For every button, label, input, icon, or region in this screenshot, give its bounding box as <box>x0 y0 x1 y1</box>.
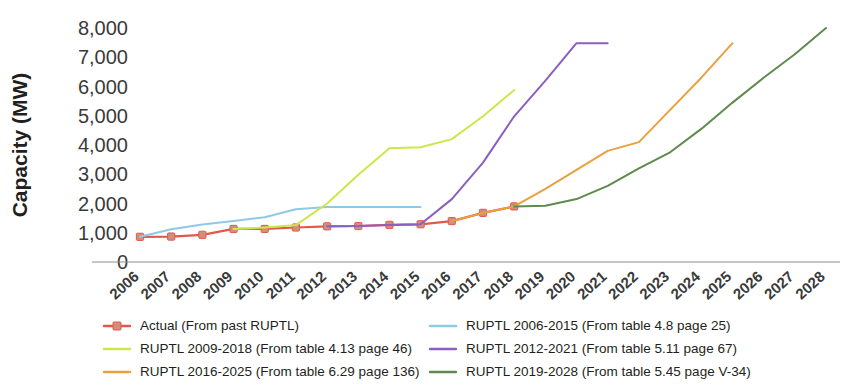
legend-item-label: RUPTL 2006-2015 (From table 4.8 page 25) <box>466 318 730 333</box>
x-axis-tick-labels: 2006200720082009201020112012201320142015… <box>106 267 828 302</box>
x-axis-tick-label: 2022 <box>605 268 641 303</box>
chart-legend: Actual (From past RUPTL)RUPTL 2009-2018 … <box>104 318 751 379</box>
legend-item-label: RUPTL 2016-2025 (From table 6.29 page 13… <box>140 364 419 379</box>
x-axis-tick-label: 2008 <box>168 268 204 303</box>
y-axis-tick-labels: 01,0002,0003,0004,0005,0006,0007,0008,00… <box>78 17 128 273</box>
x-axis-tick-label: 2020 <box>542 268 578 303</box>
x-axis-tick-label: 2010 <box>231 268 267 303</box>
x-axis-tick-label: 2014 <box>355 267 392 302</box>
x-axis-tick-label: 2012 <box>293 268 329 303</box>
x-axis-tick-label: 2011 <box>262 268 298 302</box>
capacity-line-chart: Capacity (MW) 01,0002,0003,0004,0005,000… <box>0 0 851 387</box>
series-1 <box>136 203 517 241</box>
y-axis-title: Capacity (MW) <box>8 73 31 218</box>
legend-item-label: Actual (From past RUPTL) <box>140 318 299 333</box>
x-axis-tick-label: 2023 <box>636 268 672 303</box>
chart-canvas: Capacity (MW) 01,0002,0003,0004,0005,000… <box>0 0 851 387</box>
legend-item[interactable]: RUPTL 2006-2015 (From table 4.8 page 25) <box>430 318 730 333</box>
x-axis-tick-label: 2026 <box>729 268 765 303</box>
x-axis-tick-label: 2017 <box>449 268 485 303</box>
legend-item[interactable]: RUPTL 2016-2025 (From table 6.29 page 13… <box>104 364 419 379</box>
series-line-path <box>140 206 514 236</box>
y-axis-tick-label: 1,000 <box>78 222 128 244</box>
legend-item-label: RUPTL 2019-2028 (From table 5.45 page V-… <box>466 364 751 379</box>
x-axis-tick-label: 2019 <box>511 268 547 303</box>
y-axis-title-text: Capacity (MW) <box>8 73 31 218</box>
legend-item-label: RUPTL 2009-2018 (From table 4.13 page 46… <box>140 341 412 356</box>
x-axis-tick-label: 2018 <box>480 268 516 303</box>
series-line-path <box>327 43 608 226</box>
x-axis-tick-label: 2015 <box>386 268 422 303</box>
y-axis-tick-label: 2,000 <box>78 193 128 215</box>
series-line-path <box>140 207 421 237</box>
y-axis-tick-label: 6,000 <box>78 76 128 98</box>
x-axis-tick-label: 2007 <box>137 268 173 303</box>
legend-swatch-marker <box>113 322 121 330</box>
y-axis-tick-label: 8,000 <box>78 17 128 39</box>
series-line-path <box>452 43 733 221</box>
legend-item[interactable]: RUPTL 2019-2028 (From table 5.45 page V-… <box>430 364 751 379</box>
y-axis-tick-label: 4,000 <box>78 134 128 156</box>
series-4 <box>327 43 608 226</box>
x-axis-tick-label: 2021 <box>574 268 610 303</box>
x-axis-tick-label: 2009 <box>199 268 235 303</box>
series-marker <box>199 231 206 238</box>
x-axis-tick-label: 2025 <box>698 268 734 303</box>
series-lines <box>136 28 826 240</box>
x-axis-tick-label: 2013 <box>324 268 360 303</box>
y-axis-tick-label: 7,000 <box>78 46 128 68</box>
series-line-path <box>234 90 515 229</box>
x-axis-tick-label: 2027 <box>761 268 797 303</box>
series-3 <box>234 90 515 229</box>
y-axis-tick-label: 3,000 <box>78 163 128 185</box>
series-2 <box>140 207 421 237</box>
series-5 <box>452 43 733 221</box>
legend-item[interactable]: RUPTL 2012-2021 (From table 5.11 page 67… <box>430 341 737 356</box>
legend-item[interactable]: RUPTL 2009-2018 (From table 4.13 page 46… <box>104 341 412 356</box>
x-axis-tick-label: 2006 <box>106 268 142 303</box>
legend-item-label: RUPTL 2012-2021 (From table 5.11 page 67… <box>466 341 737 356</box>
x-axis-tick-label: 2024 <box>667 267 704 302</box>
series-marker <box>168 233 175 240</box>
x-axis-tick-label: 2028 <box>792 268 828 303</box>
y-axis-tick-label: 5,000 <box>78 105 128 127</box>
x-axis-tick-label: 2016 <box>418 268 454 303</box>
legend-item[interactable]: Actual (From past RUPTL) <box>104 318 299 333</box>
